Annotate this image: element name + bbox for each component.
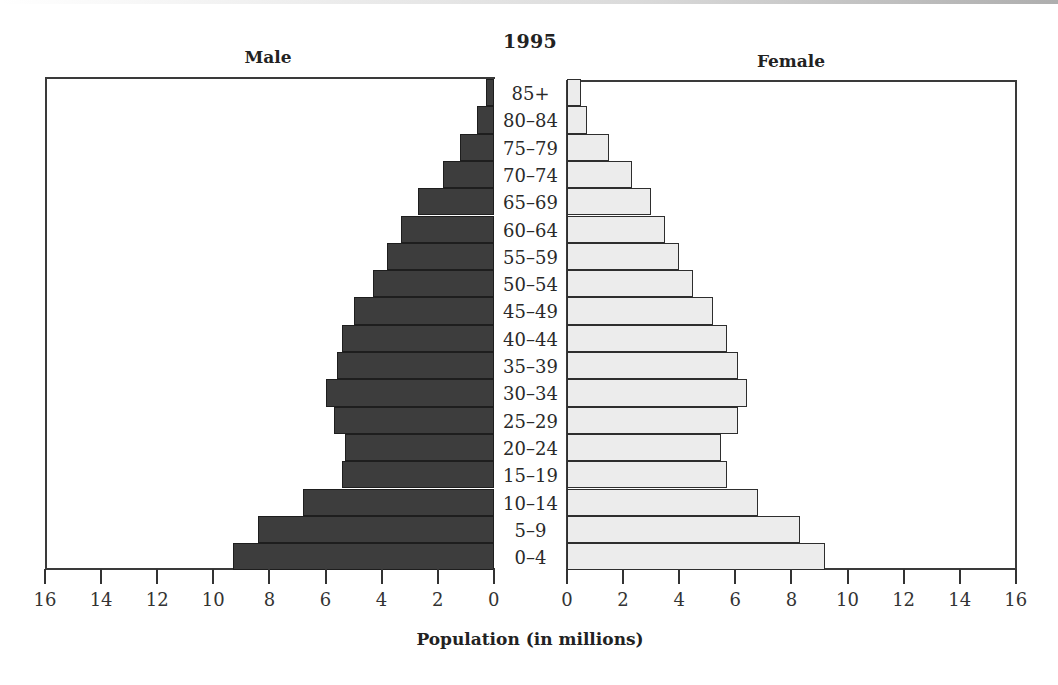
female-axis-tick-label: 6 [715, 589, 755, 610]
female-panel-title: Female [691, 51, 891, 71]
male-bar [345, 434, 494, 461]
female-bar [567, 216, 665, 243]
male-bar [334, 407, 494, 434]
male-axis-tick-label: 16 [25, 589, 65, 610]
male-axis-tick-label: 8 [249, 589, 289, 610]
female-axis-tick [847, 569, 849, 584]
female-bar [567, 134, 609, 161]
male-bar [342, 461, 494, 488]
male-bar [387, 243, 494, 270]
male-axis-tick-label: 12 [137, 589, 177, 610]
age-group-label: 5–9 [495, 517, 566, 544]
male-bar [303, 489, 494, 516]
male-bar [326, 379, 494, 406]
male-bar [342, 325, 494, 352]
male-axis-tick [44, 569, 46, 584]
age-group-label: 70–74 [495, 162, 566, 189]
male-axis-tick [212, 569, 214, 584]
male-axis-tick [156, 569, 158, 584]
x-axis-title: Population (in millions) [380, 629, 680, 649]
scan-edge-shadow [0, 0, 1058, 4]
male-axis-tick [268, 569, 270, 584]
male-bar [418, 188, 494, 215]
male-axis-tick [100, 569, 102, 584]
age-group-label: 65–69 [495, 189, 566, 216]
female-axis-tick-label: 4 [659, 589, 699, 610]
female-bar [567, 188, 651, 215]
female-axis-tick-label: 10 [828, 589, 868, 610]
male-axis-tick-label: 6 [306, 589, 346, 610]
male-axis-tick [325, 569, 327, 584]
female-axis-tick [790, 569, 792, 584]
age-group-label: 35–39 [495, 353, 566, 380]
age-group-label: 80–84 [495, 107, 566, 134]
female-bar [567, 489, 758, 516]
female-axis-tick [734, 569, 736, 584]
female-axis-tick [622, 569, 624, 584]
female-bar [567, 352, 738, 379]
female-bar [567, 407, 738, 434]
female-bar [567, 434, 721, 461]
male-bar [477, 106, 494, 133]
age-group-label: 45–49 [495, 298, 566, 325]
male-bar [443, 161, 494, 188]
male-axis-tick-label: 2 [418, 589, 458, 610]
age-group-label: 85+ [495, 80, 566, 107]
age-group-label: 10–14 [495, 490, 566, 517]
male-bar [233, 543, 494, 570]
age-group-label: 40–44 [495, 326, 566, 353]
age-group-label: 75–79 [495, 135, 566, 162]
male-axis-tick-label: 0 [474, 589, 514, 610]
age-group-label: 55–59 [495, 244, 566, 271]
male-bar [354, 297, 494, 324]
male-bar [373, 270, 494, 297]
age-group-label: 30–34 [495, 380, 566, 407]
female-bar [567, 243, 679, 270]
female-axis-tick-label: 14 [940, 589, 980, 610]
male-panel-title: Male [168, 47, 368, 67]
age-group-label: 50–54 [495, 271, 566, 298]
female-axis-tick [959, 569, 961, 584]
female-bar [567, 161, 632, 188]
age-group-label: 25–29 [495, 408, 566, 435]
male-axis-tick [381, 569, 383, 584]
female-axis-tick-label: 2 [603, 589, 643, 610]
male-axis-tick [493, 569, 495, 584]
female-bar [567, 270, 693, 297]
female-bar [567, 297, 713, 324]
female-axis-tick [903, 569, 905, 584]
male-bar [460, 134, 494, 161]
male-axis-tick-label: 4 [362, 589, 402, 610]
female-axis-tick-label: 0 [547, 589, 587, 610]
female-axis-tick-label: 16 [996, 589, 1036, 610]
age-group-label: 0–4 [495, 544, 566, 571]
female-axis-tick-label: 8 [771, 589, 811, 610]
female-bar [567, 79, 581, 106]
age-group-label: 20–24 [495, 435, 566, 462]
age-group-label: 15–19 [495, 462, 566, 489]
female-bar [567, 325, 727, 352]
female-axis-tick [566, 569, 568, 584]
male-bar [258, 516, 494, 543]
chart-title: 1995 [470, 30, 590, 52]
male-axis-tick [437, 569, 439, 584]
female-axis-tick [1015, 569, 1017, 584]
female-axis-tick [678, 569, 680, 584]
age-group-label: 60–64 [495, 217, 566, 244]
female-bar [567, 516, 800, 543]
female-bar [567, 379, 747, 406]
female-axis-tick-label: 12 [884, 589, 924, 610]
male-bar [486, 79, 494, 106]
male-axis-tick-label: 14 [81, 589, 121, 610]
female-bar [567, 461, 727, 488]
male-bar [337, 352, 494, 379]
female-bar [567, 543, 825, 570]
female-bar [567, 106, 587, 133]
male-axis-tick-label: 10 [193, 589, 233, 610]
male-bar [401, 216, 494, 243]
